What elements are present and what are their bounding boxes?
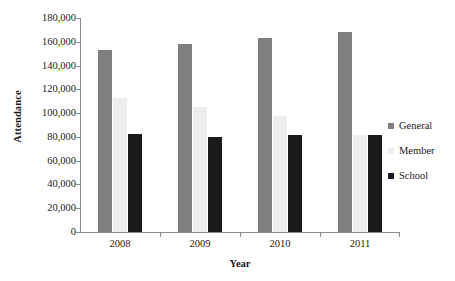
y-axis-tick-labels: 020,00040,00060,00080,000100,000120,0001… <box>24 0 76 281</box>
bar-member-2009 <box>193 107 207 232</box>
legend-label: School <box>399 170 428 181</box>
x-axis-tick-mark <box>240 233 241 237</box>
x-axis-tick-mark <box>160 233 161 237</box>
y-axis-tick-mark <box>76 184 80 185</box>
legend-swatch-icon <box>388 173 394 179</box>
y-axis-line <box>80 18 81 233</box>
legend-label: Member <box>399 145 435 156</box>
y-axis-tick-mark <box>76 89 80 90</box>
bar-general-2011 <box>338 32 352 232</box>
x-axis-tick-mark <box>320 233 321 237</box>
legend-swatch-icon <box>388 148 394 154</box>
bar-member-2010 <box>273 116 287 233</box>
x-axis-title: Year <box>80 258 400 269</box>
bar-group <box>338 18 382 232</box>
plot-area <box>80 18 400 233</box>
legend-swatch-icon <box>388 123 394 129</box>
x-axis-tick-mark <box>399 233 400 237</box>
x-axis-tick-label: 2010 <box>270 238 291 249</box>
x-axis-tick-label: 2011 <box>350 238 371 249</box>
y-axis-tick-mark <box>76 66 80 67</box>
legend-label: General <box>399 120 432 131</box>
y-axis-tick-label: 80,000 <box>47 132 76 142</box>
y-axis-tick-mark <box>76 42 80 43</box>
bar-school-2009 <box>208 137 222 232</box>
x-axis-tick-label: 2008 <box>110 238 131 249</box>
y-axis-tick-label: 140,000 <box>42 61 76 71</box>
y-axis-tick-label: 180,000 <box>42 13 76 23</box>
bar-member-2008 <box>113 98 127 232</box>
x-axis-tick-label: 2009 <box>190 238 211 249</box>
bar-group <box>178 18 222 232</box>
bar-group <box>258 18 302 232</box>
bar-school-2008 <box>128 134 142 232</box>
bar-member-2011 <box>353 135 367 232</box>
y-axis-tick-label: 160,000 <box>42 37 76 47</box>
y-axis-tick-mark <box>76 232 80 233</box>
y-axis-tick-mark <box>76 18 80 19</box>
y-axis-tick-mark <box>76 113 80 114</box>
legend-item-member[interactable]: Member <box>388 138 454 163</box>
bar-general-2009 <box>178 44 192 232</box>
y-axis-tick-label: 20,000 <box>47 203 76 213</box>
bar-school-2010 <box>288 135 302 232</box>
legend-item-general[interactable]: General <box>388 113 454 138</box>
y-axis-tick-label: 40,000 <box>47 179 76 189</box>
bar-school-2011 <box>368 135 382 232</box>
bar-chart-figure: Attendance 020,00040,00060,00080,000100,… <box>0 0 455 281</box>
y-axis-tick-label: 60,000 <box>47 156 76 166</box>
bar-group <box>98 18 142 232</box>
y-axis-title-text: Attendance <box>12 90 23 142</box>
bar-general-2010 <box>258 38 272 232</box>
y-axis-tick-mark <box>76 161 80 162</box>
y-axis-tick-mark <box>76 137 80 138</box>
chart-legend: GeneralMemberSchool <box>388 113 454 188</box>
y-axis-tick-label: 100,000 <box>42 108 76 118</box>
bar-general-2008 <box>98 50 112 232</box>
legend-item-school[interactable]: School <box>388 163 454 188</box>
y-axis-tick-label: 120,000 <box>42 84 76 94</box>
y-axis-tick-mark <box>76 208 80 209</box>
